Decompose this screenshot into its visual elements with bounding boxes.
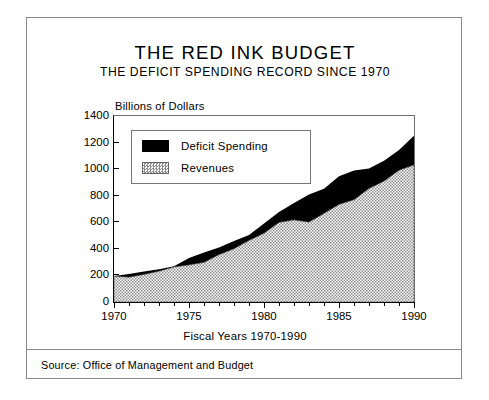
x-tick-mark-1980	[264, 302, 265, 308]
x-tick-mark-1978	[234, 302, 235, 306]
y-tick-label-1400: 1400	[84, 109, 109, 121]
x-tick-mark-1979	[249, 302, 250, 306]
y-axis-title: Billions of Dollars	[115, 100, 205, 112]
legend-label-deficit-spending: Deficit Spending	[181, 140, 268, 152]
x-tick-mark-1976	[204, 302, 205, 306]
legend-item-deficit-spending: Deficit Spending	[142, 139, 268, 153]
x-tick-label-1990: 1990	[401, 310, 426, 322]
x-tick-mark-1972	[144, 302, 145, 306]
x-tick-mark-1985	[339, 302, 340, 308]
x-tick-mark-1990	[414, 302, 415, 308]
chart-legend: Deficit Spending Revenues	[131, 130, 311, 184]
x-tick-label-1970: 1970	[101, 310, 126, 322]
x-tick-mark-1982	[294, 302, 295, 306]
page-title: THE RED INK BUDGET	[27, 43, 463, 62]
footer-divider	[27, 349, 461, 350]
x-tick-mark-1989	[399, 302, 400, 306]
legend-item-revenues: Revenues	[142, 161, 234, 175]
x-axis-title: Fiscal Years 1970-1990	[27, 330, 463, 342]
x-axis-tick-marks	[114, 302, 414, 309]
x-tick-mark-1975	[189, 302, 190, 308]
legend-swatch-revenues-icon	[142, 162, 169, 174]
y-tick-label-0: 0	[103, 295, 109, 307]
x-tick-mark-1974	[174, 302, 175, 306]
x-tick-mark-1973	[159, 302, 160, 306]
x-tick-mark-1988	[384, 302, 385, 306]
x-tick-mark-1981	[279, 302, 280, 306]
x-tick-mark-1987	[369, 302, 370, 306]
x-tick-mark-1970	[114, 302, 115, 308]
y-tick-label-800: 800	[90, 189, 109, 201]
chart-subtitle: THE DEFICIT SPENDING RECORD SINCE 1970	[27, 66, 463, 79]
x-axis-tick-labels: 19701975198019851990	[114, 310, 414, 326]
x-tick-mark-1977	[219, 302, 220, 306]
y-tick-label-1200: 1200	[84, 136, 109, 148]
x-tick-mark-1986	[354, 302, 355, 306]
x-tick-label-1985: 1985	[326, 310, 351, 322]
x-tick-label-1980: 1980	[251, 310, 276, 322]
y-axis-tick-labels: 0200400600800100012001400	[71, 115, 109, 301]
y-tick-label-200: 200	[90, 268, 109, 280]
y-tick-label-400: 400	[90, 242, 109, 254]
legend-label-revenues: Revenues	[181, 162, 234, 174]
y-tick-label-1000: 1000	[84, 162, 109, 174]
x-tick-mark-1971	[129, 302, 130, 306]
chart-figure-frame: THE RED INK BUDGET THE DEFICIT SPENDING …	[26, 17, 462, 379]
legend-swatch-deficit-icon	[142, 140, 169, 152]
y-tick-label-600: 600	[90, 215, 109, 227]
x-tick-mark-1983	[309, 302, 310, 306]
source-note: Source: Office of Management and Budget	[41, 359, 253, 371]
x-tick-mark-1984	[324, 302, 325, 306]
title-block: THE RED INK BUDGET THE DEFICIT SPENDING …	[27, 43, 463, 79]
x-tick-label-1975: 1975	[176, 310, 201, 322]
